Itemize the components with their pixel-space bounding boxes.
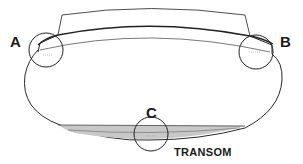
cabin-side-left	[58, 15, 62, 35]
inner-deck-line	[40, 38, 270, 52]
callout-label-a: A	[10, 34, 21, 49]
transom-caption: TRANSOM	[174, 147, 232, 158]
callout-label-b: B	[280, 34, 291, 49]
sheer-line	[38, 26, 273, 45]
hull-outline-drawing	[0, 0, 303, 164]
transom-shaded-band	[58, 125, 245, 139]
cabin-top-line	[62, 9, 245, 16]
callout-circle-a	[29, 33, 63, 67]
callout-label-c: C	[146, 105, 157, 120]
cabin-side-right	[245, 15, 250, 36]
transom-diagram: A B C TRANSOM	[0, 0, 303, 164]
